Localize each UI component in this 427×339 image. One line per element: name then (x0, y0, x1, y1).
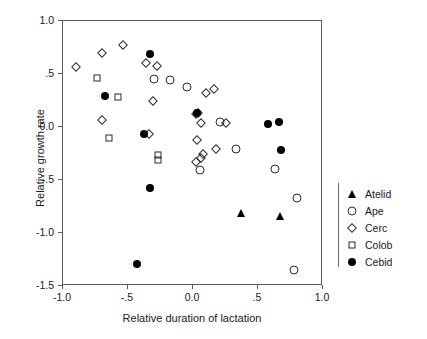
y-tick-mark (58, 179, 62, 180)
plot-frame (62, 20, 322, 285)
x-tick-label: .5 (253, 291, 262, 303)
legend-item-ape[interactable]: Ape (345, 202, 423, 219)
x-tick-mark (62, 285, 63, 289)
square-open-icon (345, 238, 359, 252)
y-tick-label: -1.5 (14, 279, 54, 291)
legend-item-colob[interactable]: Colob (345, 236, 423, 253)
legend-item-label: Colob (365, 239, 392, 251)
data-point-ape (195, 166, 204, 175)
x-axis-label: Relative duration of lactation (62, 312, 322, 324)
data-point-ape (182, 82, 191, 91)
legend-item-cebid[interactable]: Cebid (345, 253, 423, 270)
circle-filled-icon (345, 255, 359, 269)
data-point-cebid (277, 146, 285, 154)
y-tick-mark (58, 20, 62, 21)
legend-item-atelid[interactable]: Atelid (345, 185, 423, 202)
legend-divider (338, 183, 339, 267)
data-point-cebid (146, 184, 154, 192)
data-point-ape (270, 165, 279, 174)
data-point-ape (293, 194, 302, 203)
x-tick-label: -.5 (121, 291, 133, 303)
data-point-cerc (97, 48, 107, 58)
legend-marker (348, 258, 356, 266)
y-tick-mark (58, 73, 62, 74)
data-point-cerc (196, 118, 206, 128)
data-point-ape (290, 266, 299, 275)
data-point-cerc (211, 144, 221, 154)
legend-item-cerc[interactable]: Cerc (345, 219, 423, 236)
data-point-cerc (97, 115, 107, 125)
data-point-ape (150, 75, 159, 84)
x-tick-label: 1.0 (315, 291, 330, 303)
legend-marker (348, 190, 356, 198)
legend-marker (349, 241, 356, 248)
data-point-cerc (192, 135, 202, 145)
data-point-cebid (264, 120, 272, 128)
data-point-colob (154, 156, 161, 163)
legend-marker (348, 206, 357, 215)
x-tick-mark (127, 285, 128, 289)
y-tick-mark (58, 126, 62, 127)
diamond-open-icon (345, 221, 359, 235)
legend-item-label: Cerc (365, 222, 387, 234)
data-point-cebid (133, 260, 141, 268)
legend-item-label: Atelid (365, 188, 391, 200)
legend: AtelidApeCercColobCebid (345, 185, 423, 270)
data-point-atelid (237, 209, 245, 217)
data-point-cebid (140, 130, 148, 138)
data-points-layer (63, 21, 321, 284)
data-point-cebid (101, 92, 109, 100)
data-point-cerc (118, 40, 128, 50)
x-tick-label: 0.0 (185, 291, 200, 303)
legend-item-label: Ape (365, 205, 384, 217)
data-point-cerc (71, 62, 81, 72)
legend-marker (347, 223, 357, 233)
x-tick-mark (192, 285, 193, 289)
data-point-colob (105, 134, 112, 141)
y-tick-label: 1.0 (14, 14, 54, 26)
data-point-ape (231, 145, 240, 154)
legend-item-label: Cebid (365, 256, 392, 268)
data-point-cerc (152, 61, 162, 71)
data-point-cebid (275, 118, 283, 126)
data-point-ape (165, 76, 174, 85)
data-point-cebid (193, 109, 201, 117)
circle-open-icon (345, 204, 359, 218)
scatter-plot-figure: -1.0-.50.0.51.0 -1.5-1.0-.50.0.51.0 Rela… (0, 0, 427, 339)
data-point-colob (114, 94, 121, 101)
x-tick-mark (257, 285, 258, 289)
data-point-cerc (148, 96, 158, 106)
data-point-cebid (146, 50, 154, 58)
triangle-filled-icon (345, 187, 359, 201)
y-tick-mark (58, 232, 62, 233)
data-point-colob (93, 75, 100, 82)
y-axis-label: Relative growth rate (34, 58, 46, 258)
y-tick-mark (58, 285, 62, 286)
x-tick-mark (322, 285, 323, 289)
data-point-cerc (141, 58, 151, 68)
data-point-atelid (276, 212, 284, 220)
x-tick-label: -1.0 (53, 291, 71, 303)
